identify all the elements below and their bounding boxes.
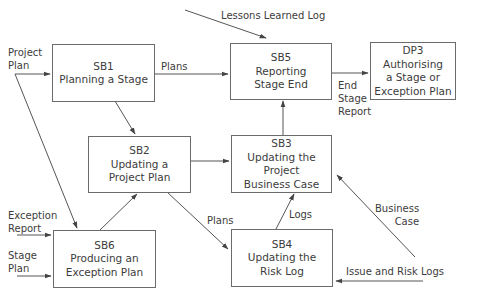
node-dp3-line-2: a Stage or [386, 71, 440, 85]
label-end-stage-report-line-2: Stage [338, 92, 371, 105]
diagram-canvas: SB1 Planning a Stage SB5 Reporting Stage… [0, 0, 483, 304]
label-business-case: Business Case [375, 202, 419, 228]
node-sb2: SB2 Updating a Project Plan [88, 136, 191, 193]
node-sb3-line-1: Updating the [247, 151, 315, 165]
node-sb1-id: SB1 [93, 60, 114, 74]
arrow-sb1-to-sb2 [115, 101, 135, 134]
node-sb6: SB6 Producing an Exception Plan [53, 230, 156, 288]
node-sb2-line-2: Project Plan [109, 171, 171, 185]
label-stage-plan-line-1: Stage [8, 249, 37, 262]
label-business-case-line-2: Case [375, 215, 419, 228]
label-plans-sb1-sb5: Plans [161, 60, 187, 73]
node-sb5: SB5 Reporting Stage End [230, 43, 332, 100]
label-exception-report-line-2: Report [8, 222, 57, 235]
label-project-plan: Project Plan [8, 46, 42, 72]
node-sb3-line-2: Project [264, 164, 300, 178]
label-stage-plan-line-2: Plan [8, 262, 37, 275]
node-sb2-line-1: Updating a [111, 158, 169, 172]
label-end-stage-report-line-1: End [338, 79, 371, 92]
node-sb4-line-2: Risk Log [260, 265, 304, 279]
label-business-case-line-1: Business [375, 202, 419, 215]
node-sb1-line-1: Planning a Stage [59, 73, 148, 87]
label-logs: Logs [289, 208, 312, 221]
label-project-plan-line-1: Project [8, 46, 42, 59]
node-sb6-id: SB6 [94, 239, 115, 253]
node-sb5-line-2: Stage End [254, 78, 308, 92]
label-issue-and-risk-logs: Issue and Risk Logs [346, 265, 444, 278]
label-exception-report-line-1: Exception [8, 209, 57, 222]
label-exception-report: Exception Report [8, 209, 57, 235]
node-sb3-line-3: Business Case [244, 178, 319, 192]
node-sb6-line-1: Producing an [70, 252, 138, 266]
node-sb6-line-2: Exception Plan [66, 266, 143, 280]
node-dp3-line-3: Exception Plan [374, 85, 451, 99]
node-sb1: SB1 Planning a Stage [52, 44, 155, 102]
node-sb5-id: SB5 [271, 51, 292, 65]
node-sb5-line-1: Reporting [255, 65, 306, 79]
node-sb4-id: SB4 [272, 238, 293, 252]
node-sb2-id: SB2 [129, 144, 150, 158]
node-sb3-id: SB3 [271, 137, 292, 151]
node-sb4: SB4 Updating the Risk Log [231, 229, 333, 287]
label-plans-sb2-sb4: Plans [207, 214, 233, 227]
node-sb4-line-1: Updating the [248, 251, 316, 265]
label-project-plan-line-2: Plan [8, 59, 42, 72]
label-stage-plan: Stage Plan [8, 249, 37, 275]
label-end-stage-report: End Stage Report [338, 79, 371, 118]
node-dp3: DP3 Authorising a Stage or Exception Pla… [370, 42, 456, 100]
node-dp3-id: DP3 [402, 44, 423, 58]
node-sb3: SB3 Updating the Project Business Case [231, 135, 332, 193]
label-lessons-learned-log: Lessons Learned Log [221, 9, 325, 22]
node-dp3-line-1: Authorising [383, 58, 443, 72]
label-end-stage-report-line-3: Report [338, 105, 371, 118]
arrow-sb6-to-sb2 [100, 194, 137, 230]
